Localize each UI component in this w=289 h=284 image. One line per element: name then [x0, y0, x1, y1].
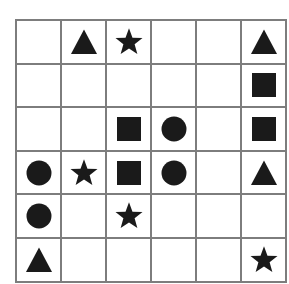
grid-cell-r6c4[interactable] — [151, 238, 196, 282]
grid-cell-r5c1[interactable] — [16, 194, 61, 238]
triangle-icon — [69, 27, 99, 57]
cell-content-r2c5 — [197, 65, 240, 107]
cell-content-r3c1 — [17, 108, 60, 150]
grid-cell-r4c6[interactable] — [241, 151, 286, 195]
cell-content-r5c3 — [107, 195, 150, 237]
triangle-icon — [249, 27, 279, 57]
cell-content-r4c5 — [197, 152, 240, 194]
square-icon — [114, 114, 144, 144]
cell-content-r2c3 — [107, 65, 150, 107]
circle-icon — [24, 158, 54, 188]
grid-cell-r5c3[interactable] — [106, 194, 151, 238]
cell-content-r3c4 — [152, 108, 195, 150]
cell-content-r1c5 — [197, 21, 240, 63]
cell-content-r5c5 — [197, 195, 240, 237]
cell-content-r1c3 — [107, 21, 150, 63]
triangle-icon — [24, 245, 54, 275]
cell-content-r2c4 — [152, 65, 195, 107]
cell-content-r6c6 — [242, 239, 285, 281]
grid-cell-r3c6[interactable] — [241, 107, 286, 151]
cell-content-r4c1 — [17, 152, 60, 194]
grid-cell-r1c3[interactable] — [106, 20, 151, 64]
square-icon — [249, 70, 279, 100]
grid-cell-r2c4[interactable] — [151, 64, 196, 108]
cell-content-r5c4 — [152, 195, 195, 237]
cell-content-r6c2 — [62, 239, 105, 281]
cell-content-r1c4 — [152, 21, 195, 63]
cell-content-r1c1 — [17, 21, 60, 63]
grid-cell-r3c5[interactable] — [196, 107, 241, 151]
cell-content-r6c1 — [17, 239, 60, 281]
shape-grid-canvas — [0, 0, 289, 284]
cell-content-r2c6 — [242, 65, 285, 107]
cell-content-r1c2 — [62, 21, 105, 63]
grid-cell-r6c3[interactable] — [106, 238, 151, 282]
cell-content-r1c6 — [242, 21, 285, 63]
star-icon — [249, 245, 279, 275]
star-icon — [114, 201, 144, 231]
cell-content-r2c2 — [62, 65, 105, 107]
cell-content-r6c4 — [152, 239, 195, 281]
grid-cell-r1c1[interactable] — [16, 20, 61, 64]
grid-cell-r1c6[interactable] — [241, 20, 286, 64]
cell-content-r3c5 — [197, 108, 240, 150]
cell-content-r2c1 — [17, 65, 60, 107]
grid-cell-r1c5[interactable] — [196, 20, 241, 64]
cell-content-r5c1 — [17, 195, 60, 237]
grid-cell-r3c3[interactable] — [106, 107, 151, 151]
cell-content-r3c6 — [242, 108, 285, 150]
grid-cell-r6c5[interactable] — [196, 238, 241, 282]
grid-cell-r6c2[interactable] — [61, 238, 106, 282]
grid-cell-r1c4[interactable] — [151, 20, 196, 64]
cell-content-r6c5 — [197, 239, 240, 281]
grid-cell-r3c2[interactable] — [61, 107, 106, 151]
star-icon — [69, 158, 99, 188]
circle-icon — [24, 201, 54, 231]
grid-cell-r1c2[interactable] — [61, 20, 106, 64]
grid-cell-r5c5[interactable] — [196, 194, 241, 238]
grid-cell-r4c4[interactable] — [151, 151, 196, 195]
shape-grid-body — [16, 20, 286, 282]
grid-cell-r6c1[interactable] — [16, 238, 61, 282]
grid-row-3 — [16, 107, 286, 151]
grid-row-1 — [16, 20, 286, 64]
cell-content-r3c2 — [62, 108, 105, 150]
grid-cell-r5c2[interactable] — [61, 194, 106, 238]
grid-cell-r5c4[interactable] — [151, 194, 196, 238]
star-icon — [114, 27, 144, 57]
cell-content-r4c2 — [62, 152, 105, 194]
cell-content-r3c3 — [107, 108, 150, 150]
square-icon — [114, 158, 144, 188]
grid-cell-r5c6[interactable] — [241, 194, 286, 238]
grid-row-4 — [16, 151, 286, 195]
shape-grid — [15, 19, 287, 283]
cell-content-r6c3 — [107, 239, 150, 281]
grid-cell-r2c2[interactable] — [61, 64, 106, 108]
grid-cell-r2c5[interactable] — [196, 64, 241, 108]
grid-cell-r4c3[interactable] — [106, 151, 151, 195]
cell-content-r4c4 — [152, 152, 195, 194]
grid-cell-r4c1[interactable] — [16, 151, 61, 195]
grid-row-5 — [16, 194, 286, 238]
grid-cell-r4c5[interactable] — [196, 151, 241, 195]
cell-content-r4c6 — [242, 152, 285, 194]
grid-row-6 — [16, 238, 286, 282]
grid-cell-r2c3[interactable] — [106, 64, 151, 108]
grid-row-2 — [16, 64, 286, 108]
circle-icon — [159, 158, 189, 188]
grid-cell-r2c1[interactable] — [16, 64, 61, 108]
cell-content-r5c2 — [62, 195, 105, 237]
square-icon — [249, 114, 279, 144]
grid-cell-r3c4[interactable] — [151, 107, 196, 151]
grid-cell-r3c1[interactable] — [16, 107, 61, 151]
grid-cell-r4c2[interactable] — [61, 151, 106, 195]
circle-icon — [159, 114, 189, 144]
triangle-icon — [249, 158, 279, 188]
grid-cell-r2c6[interactable] — [241, 64, 286, 108]
cell-content-r5c6 — [242, 195, 285, 237]
cell-content-r4c3 — [107, 152, 150, 194]
grid-cell-r6c6[interactable] — [241, 238, 286, 282]
